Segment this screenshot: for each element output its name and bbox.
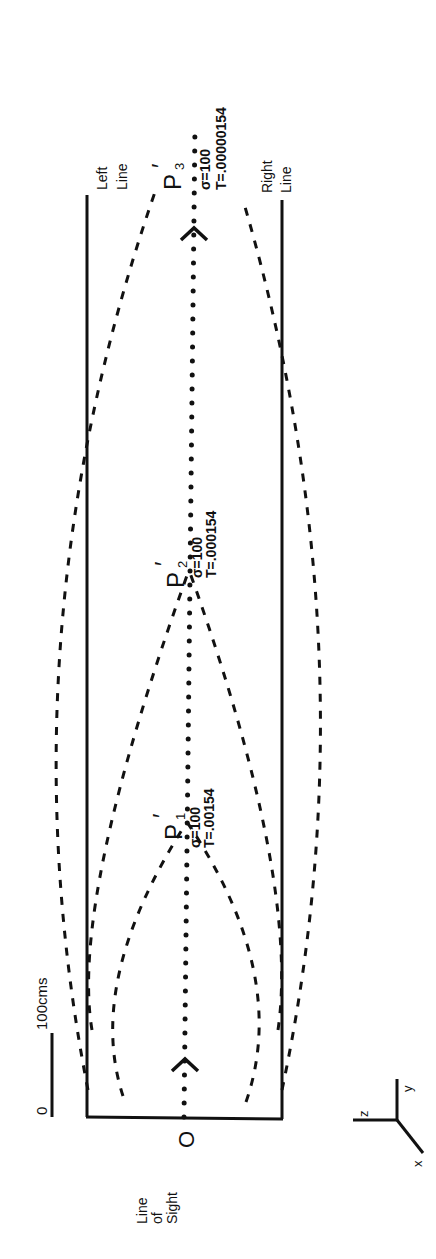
svg-text:′: ′ [150, 561, 177, 566]
svg-text:Line: Line [134, 1197, 150, 1224]
svg-text:P: P [159, 174, 186, 190]
point-p2-label: P 2 ′ σ=100 T=.000154 [150, 510, 219, 588]
svg-text:T=.000154: T=.000154 [203, 510, 219, 578]
svg-text:Left: Left [94, 167, 110, 190]
svg-text:1: 1 [173, 813, 188, 820]
boundary-lines [86, 195, 283, 1119]
svg-text:Line: Line [278, 166, 294, 193]
scale-length-label: 100cms [33, 977, 50, 1030]
line-of-sight-dotted [184, 125, 195, 1117]
svg-text:2: 2 [175, 561, 190, 568]
scale-zero-label: 0 [33, 1107, 50, 1115]
axis-y-label: y [400, 1085, 415, 1092]
point-p3-label: P 3 ′ σ=100 T=.00000154 [147, 107, 229, 190]
arrowhead-lower [172, 1059, 198, 1071]
svg-text:Right: Right [259, 160, 275, 193]
svg-text:Line: Line [114, 163, 130, 190]
point-p1-label: P 1 ′ σ=100 T=.00154 [148, 788, 217, 848]
svg-text:P: P [162, 572, 189, 588]
origin-label: O [174, 1131, 199, 1148]
svg-text:3: 3 [172, 163, 187, 170]
svg-text:′: ′ [147, 163, 174, 168]
left-line-label: Left Line [94, 163, 130, 190]
axis-x-label: x [410, 1160, 425, 1167]
line-of-sight-diagram: 0 100cms O Line of Sight Left Line Right… [0, 0, 436, 1259]
svg-text:′: ′ [148, 813, 175, 818]
svg-text:σ=100: σ=100 [197, 149, 213, 190]
line-of-sight-label: Line of Sight [134, 1192, 180, 1224]
right-line-label: Right Line [259, 160, 294, 193]
svg-text:of: of [149, 1212, 165, 1224]
svg-text:Sight: Sight [164, 1192, 180, 1224]
svg-text:T=.00000154: T=.00000154 [213, 107, 229, 190]
svg-text:T=.00154: T=.00154 [201, 788, 217, 848]
axis-z-label: z [356, 1111, 371, 1118]
svg-text:P: P [160, 824, 187, 840]
